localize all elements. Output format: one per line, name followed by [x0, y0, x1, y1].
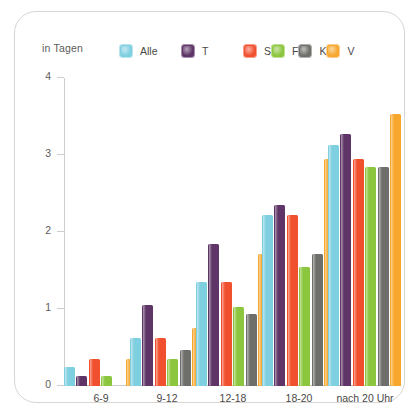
y-axis-tick-label: 0: [45, 378, 51, 390]
bar-slot: [155, 78, 166, 386]
legend-item-alle: Alle: [119, 40, 181, 61]
bar-k-3[interactable]: [312, 254, 323, 386]
bar-slot: [378, 78, 389, 386]
bar-s-0[interactable]: [89, 359, 100, 386]
bar-slot: [208, 78, 219, 386]
bar-k-2[interactable]: [246, 314, 257, 386]
y-axis-tick-label: 4: [45, 70, 51, 82]
legend-swatch-f: [271, 44, 285, 58]
bar-alle-1[interactable]: [130, 338, 141, 387]
bar-s-1[interactable]: [155, 338, 166, 387]
plot-area: 01234 6-99-1212-1818-20nach 20 Uhr: [64, 78, 394, 386]
legend-swatch-v: [326, 44, 340, 58]
legend-item-t: T: [181, 40, 243, 61]
bar-slot: [233, 78, 244, 386]
bar-slot: [142, 78, 153, 386]
legend-swatch-s: [243, 44, 257, 58]
bar-s-2[interactable]: [221, 282, 232, 386]
bar-alle-4[interactable]: [328, 145, 339, 386]
bar-alle-3[interactable]: [262, 215, 273, 386]
bar-f-0[interactable]: [101, 376, 112, 386]
bar-slot: [312, 78, 323, 386]
bar-group: [262, 78, 337, 386]
legend-item-k: K: [298, 40, 326, 61]
y-axis-tick-label: 3: [45, 147, 51, 159]
bar-t-2[interactable]: [208, 244, 219, 386]
legend-item-label: V: [347, 45, 354, 57]
bar-slot: [287, 78, 298, 386]
legend-item-f: F: [271, 40, 298, 61]
bar-group: [196, 78, 271, 386]
bar-t-4[interactable]: [340, 134, 351, 386]
bar-k-4[interactable]: [378, 167, 389, 386]
y-axis-tick-label: 1: [45, 301, 51, 313]
bar-t-1[interactable]: [142, 305, 153, 386]
legend-swatch-alle: [119, 44, 133, 58]
bar-slot: [274, 78, 285, 386]
bar-slot: [196, 78, 207, 386]
legend-item-label: S: [264, 45, 271, 57]
bar-f-2[interactable]: [233, 307, 244, 386]
bar-v-4[interactable]: [390, 114, 401, 386]
bar-s-4[interactable]: [353, 159, 364, 386]
bar-slot: [180, 78, 191, 386]
legend-item-label: T: [202, 45, 208, 57]
bar-slot: [89, 78, 100, 386]
bar-t-3[interactable]: [274, 205, 285, 386]
legend-item-s: S: [243, 40, 271, 61]
x-axis-category-label: nach 20 Uhr: [316, 392, 415, 404]
bar-slot: [167, 78, 178, 386]
legend-item-label: Alle: [140, 45, 158, 57]
bar-slot: [340, 78, 351, 386]
legend-item-v: V: [326, 40, 354, 61]
bar-slot: [221, 78, 232, 386]
bar-slot: [130, 78, 141, 386]
bar-group: [328, 78, 403, 386]
bar-slot: [101, 78, 112, 386]
bar-slot: [299, 78, 310, 386]
bar-t-0[interactable]: [76, 376, 87, 386]
bar-slot: [390, 78, 401, 386]
bar-slot: [353, 78, 364, 386]
bar-f-4[interactable]: [365, 167, 376, 386]
bar-f-1[interactable]: [167, 359, 178, 386]
legend-swatch-k: [298, 44, 312, 58]
bar-slot: [64, 78, 75, 386]
bar-slot: [365, 78, 376, 386]
axis-unit-label: in Tagen: [42, 42, 83, 54]
chart-card: in Tagen AlleTSFKV 01234 6-99-1212-1818-…: [14, 11, 405, 403]
bar-group: [64, 78, 139, 386]
bar-slot: [328, 78, 339, 386]
bar-f-3[interactable]: [299, 267, 310, 386]
bar-slot: [114, 78, 125, 386]
bar-slot: [246, 78, 257, 386]
legend-swatch-t: [181, 44, 195, 58]
y-axis-tick-label: 2: [45, 224, 51, 236]
bar-slot: [76, 78, 87, 386]
bar-s-3[interactable]: [287, 215, 298, 386]
bar-group: [130, 78, 205, 386]
bar-slot: [262, 78, 273, 386]
chart-legend: AlleTSFKV: [119, 40, 249, 61]
bar-alle-0[interactable]: [64, 367, 75, 386]
bar-k-1[interactable]: [180, 350, 191, 386]
legend-item-label: K: [319, 45, 326, 57]
bar-alle-2[interactable]: [196, 282, 207, 386]
